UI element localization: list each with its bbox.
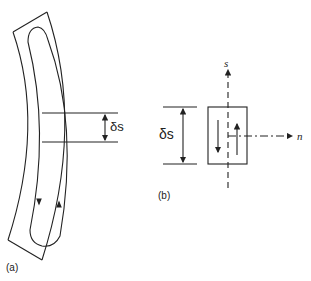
panel-a-label: (a) xyxy=(6,262,18,273)
strip-outer-left-edge xyxy=(8,32,28,240)
flow-arrow-right xyxy=(57,202,61,207)
panel-b-label: (b) xyxy=(158,190,170,201)
strip-bottom-end xyxy=(8,240,42,260)
panel-a-ds-label: δs xyxy=(110,119,124,134)
figure-canvas: δs (a) δs s n (b) xyxy=(0,0,311,281)
s-axis-label: s xyxy=(224,57,228,69)
shear-flow-loop xyxy=(28,27,67,246)
panel-a xyxy=(8,12,118,260)
panel-b xyxy=(163,70,292,188)
n-axis-label: n xyxy=(297,130,303,142)
strip-outer-right-edge xyxy=(42,12,65,260)
flow-arrow-left xyxy=(37,199,41,204)
panel-b-ds-label: δs xyxy=(159,126,174,142)
